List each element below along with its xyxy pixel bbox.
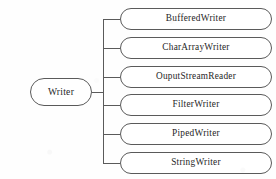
class-node-filterwriter[interactable]: FilterWriter — [120, 94, 272, 116]
class-node-ouputstreamreader[interactable]: OuputStreamReader — [120, 66, 272, 88]
class-node-label: PipedWriter — [172, 129, 220, 138]
class-node-label: CharArrayWriter — [162, 43, 229, 52]
class-node-chararraywriter[interactable]: CharArrayWriter — [120, 37, 272, 59]
class-hierarchy-diagram: Writer BufferedWriter CharArrayWriter Ou… — [0, 0, 276, 179]
class-node-label: FilterWriter — [172, 100, 219, 109]
class-node-stringwriter[interactable]: StringWriter — [120, 152, 272, 174]
class-node-label: BufferedWriter — [166, 14, 226, 23]
class-node-writer[interactable]: Writer — [30, 78, 92, 106]
class-node-bufferedwriter[interactable]: BufferedWriter — [120, 8, 272, 30]
class-node-label: Writer — [48, 87, 74, 97]
class-node-pipedwriter[interactable]: PipedWriter — [120, 123, 272, 145]
class-node-label: StringWriter — [171, 158, 221, 167]
class-node-label: OuputStreamReader — [156, 72, 236, 81]
